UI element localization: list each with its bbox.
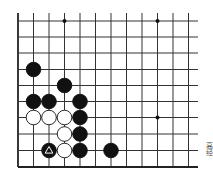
white-stone bbox=[42, 110, 57, 125]
black-stone bbox=[42, 94, 57, 109]
white-stone bbox=[26, 110, 41, 125]
stones bbox=[26, 62, 118, 158]
white-stone bbox=[57, 143, 72, 158]
black-stone bbox=[57, 78, 72, 93]
black-stone bbox=[42, 143, 57, 158]
black-stone bbox=[26, 94, 41, 109]
star-point bbox=[63, 19, 67, 23]
black-stone bbox=[26, 62, 41, 77]
black-stone bbox=[73, 127, 88, 142]
star-point bbox=[156, 19, 160, 23]
star-point bbox=[156, 116, 160, 120]
white-stone bbox=[57, 110, 72, 125]
caption-text: 高经 bbox=[203, 142, 213, 170]
white-stone bbox=[57, 127, 72, 142]
black-stone bbox=[73, 110, 88, 125]
black-stone bbox=[104, 143, 119, 158]
black-stone bbox=[73, 94, 88, 109]
black-stone bbox=[73, 143, 88, 158]
go-board-diagram bbox=[0, 0, 213, 183]
